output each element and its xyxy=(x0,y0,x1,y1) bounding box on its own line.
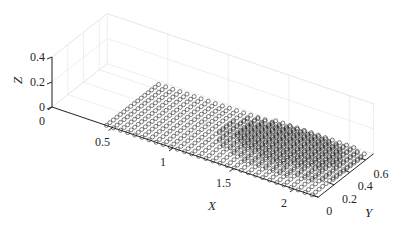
data-point xyxy=(189,113,193,117)
data-point xyxy=(214,156,218,160)
data-point xyxy=(161,127,165,131)
data-point xyxy=(225,155,229,159)
data-point xyxy=(271,175,275,179)
data-point xyxy=(257,170,261,174)
data-point xyxy=(292,174,296,178)
data-point xyxy=(242,111,246,115)
data-point xyxy=(203,133,207,137)
data-point xyxy=(111,118,115,122)
data-point xyxy=(199,112,203,116)
data-point xyxy=(147,122,151,126)
data-point xyxy=(189,128,193,132)
data-point xyxy=(296,142,300,146)
data-point xyxy=(185,108,189,112)
data-point xyxy=(154,117,158,121)
data-point xyxy=(196,130,200,134)
data-point xyxy=(292,137,296,141)
data-point xyxy=(217,122,221,126)
x-tick-label: 1 xyxy=(160,155,166,169)
data-point xyxy=(206,107,210,111)
z-tick-label: 0 xyxy=(39,100,45,114)
data-point xyxy=(296,180,300,184)
data-point xyxy=(210,127,214,131)
data-point xyxy=(143,93,147,97)
data-point xyxy=(186,147,190,151)
data-point xyxy=(292,183,296,187)
data-point xyxy=(199,105,203,109)
data-point xyxy=(164,124,168,128)
data-point xyxy=(161,103,165,107)
data-point xyxy=(175,124,179,128)
data-point xyxy=(161,111,165,115)
data-point xyxy=(165,140,169,144)
data-point xyxy=(172,134,176,138)
data-point xyxy=(221,150,225,154)
data-point xyxy=(129,120,133,124)
y-tick-label: 0 xyxy=(326,204,332,218)
data-point xyxy=(207,138,211,142)
data-point xyxy=(182,142,186,146)
data-point xyxy=(140,112,144,116)
box-edge xyxy=(52,14,107,57)
data-point xyxy=(206,99,210,103)
data-point xyxy=(158,137,162,141)
data-point xyxy=(157,130,161,134)
data-point xyxy=(207,130,211,134)
box-edge xyxy=(107,14,373,104)
data-point xyxy=(132,102,136,106)
z-tick-label: 0.2 xyxy=(30,75,45,89)
data-point xyxy=(143,117,147,121)
data-point xyxy=(185,100,189,104)
data-point xyxy=(220,104,224,108)
data-point xyxy=(182,118,186,122)
data-point xyxy=(172,126,176,130)
data-point xyxy=(236,155,240,159)
data-point xyxy=(179,137,183,141)
data-point xyxy=(221,119,225,123)
data-point xyxy=(179,129,183,133)
data-point xyxy=(175,139,179,143)
x-tick-label: 0.5 xyxy=(95,135,110,149)
data-point xyxy=(203,110,207,114)
data-point xyxy=(139,96,143,100)
data-point xyxy=(261,138,265,142)
data-point xyxy=(150,88,154,92)
data-point xyxy=(175,108,179,112)
data-point xyxy=(217,114,221,118)
data-point xyxy=(129,104,133,108)
data-point xyxy=(136,130,140,134)
data-point xyxy=(200,128,204,132)
data-point xyxy=(179,144,183,148)
data-point xyxy=(185,92,189,96)
x-axis-line xyxy=(52,107,318,197)
data-point xyxy=(200,135,204,139)
data-point xyxy=(178,105,182,109)
data-point xyxy=(285,135,289,139)
data-point xyxy=(118,113,122,117)
data-point xyxy=(299,139,303,143)
data-point xyxy=(122,126,126,130)
data-point xyxy=(204,149,208,153)
data-point xyxy=(197,146,201,150)
y-tick-label: 0.2 xyxy=(342,192,357,206)
grid-line xyxy=(52,39,107,82)
data-point xyxy=(160,96,164,100)
data-point xyxy=(306,142,310,146)
data-point xyxy=(246,133,250,137)
data-point xyxy=(189,105,193,109)
data-point xyxy=(362,152,366,156)
data-points xyxy=(105,83,367,197)
data-point xyxy=(171,119,175,123)
data-point xyxy=(268,170,272,174)
data-point xyxy=(264,173,268,177)
data-point xyxy=(228,114,232,118)
data-point xyxy=(168,106,172,110)
data-point xyxy=(328,179,332,183)
data-point xyxy=(207,146,211,150)
z-tick-label: 0.4 xyxy=(30,50,45,64)
data-point xyxy=(214,132,218,136)
data-point xyxy=(299,185,303,189)
x-tick-label: 2 xyxy=(281,196,287,210)
data-point xyxy=(199,97,203,101)
data-point xyxy=(136,122,140,126)
